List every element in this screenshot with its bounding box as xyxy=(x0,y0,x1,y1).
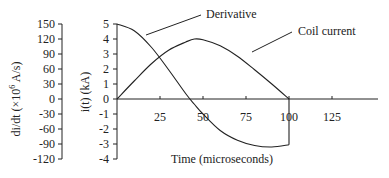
derivative-line xyxy=(117,24,289,147)
current-tick-label: -2 xyxy=(99,122,109,136)
chart: 1501209060300-30-60-90-120 543210-1-2-3-… xyxy=(0,0,389,178)
current-tick-label: 5 xyxy=(103,17,109,31)
derivative-tick-label: -30 xyxy=(39,107,55,121)
current-axis-title: i(t) (kA) xyxy=(78,72,92,112)
derivative-tick-labels: 1501209060300-30-60-90-120 xyxy=(33,17,55,166)
derivative-leader-line xyxy=(146,15,201,35)
current-tick-labels: 543210-1-2-3-4 xyxy=(99,17,109,166)
derivative-tick-label: -90 xyxy=(39,137,55,151)
derivative-tick-label: 90 xyxy=(43,47,55,61)
time-axis-title: Time (microseconds) xyxy=(171,152,273,166)
derivative-tick-label: 60 xyxy=(43,62,55,76)
coil-current-annotation: Coil current xyxy=(298,24,356,38)
derivative-tick-label: -120 xyxy=(33,152,55,166)
current-tick-label: 1 xyxy=(103,77,109,91)
current-tick-label: 4 xyxy=(103,32,109,46)
derivative-axis xyxy=(58,24,62,159)
time-axis xyxy=(117,96,378,99)
time-tick-label: 125 xyxy=(323,110,341,124)
derivative-axis-title: di/dt (×106 A/s) xyxy=(8,62,23,137)
derivative-tick-label: 150 xyxy=(37,17,55,31)
coil-current-line xyxy=(117,39,289,99)
time-tick-labels: 255075100125 xyxy=(154,110,341,124)
current-tick-label: -1 xyxy=(99,107,109,121)
time-tick-label: 75 xyxy=(240,110,252,124)
current-tick-label: 3 xyxy=(103,47,109,61)
current-tick-label: 0 xyxy=(103,92,109,106)
derivative-tick-label: 0 xyxy=(49,92,55,106)
derivative-tick-label: -60 xyxy=(39,122,55,136)
derivative-tick-label: 120 xyxy=(37,32,55,46)
current-axis xyxy=(113,24,117,159)
coil-current-leader-line xyxy=(252,32,292,52)
current-tick-label: 2 xyxy=(103,62,109,76)
derivative-annotation: Derivative xyxy=(206,7,257,21)
time-tick-label: 25 xyxy=(154,110,166,124)
current-tick-label: -4 xyxy=(99,152,109,166)
derivative-tick-label: 30 xyxy=(43,77,55,91)
time-tick-label: 50 xyxy=(197,110,209,124)
current-tick-label: -3 xyxy=(99,137,109,151)
